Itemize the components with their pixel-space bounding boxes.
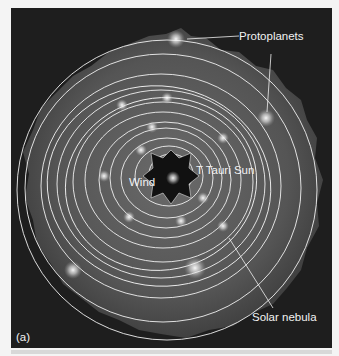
solar-nebula-label: Solar nebula: [252, 311, 317, 323]
t-tauri-sun-label: T Tauri Sun: [196, 164, 254, 176]
protoplanets-label: Protoplanets: [239, 30, 304, 42]
solar-nebula-diagram: Protoplanets T Tauri Sun Wind Solar nebu…: [11, 8, 332, 348]
wind-label: Wind: [129, 176, 155, 188]
bottom-border: [11, 350, 332, 354]
panel-label: (a): [16, 331, 30, 343]
diagram-graphics: [11, 8, 332, 348]
